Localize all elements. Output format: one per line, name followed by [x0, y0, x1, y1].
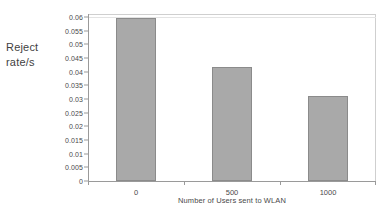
x-axis-line: [88, 181, 376, 182]
y-tick-label: 0.045: [65, 55, 88, 62]
bar: [308, 96, 348, 181]
x-tick-mark: [184, 181, 185, 185]
y-tick-label: 0.05: [69, 41, 88, 48]
y-tick-label: 0.035: [65, 82, 88, 89]
x-tick-mark: [88, 181, 89, 185]
y-tick-label: 0.01: [69, 150, 88, 157]
y-tick-label: 0: [79, 178, 88, 185]
x-axis-title: Number of Users sent to WLAN: [88, 196, 376, 205]
x-tick-mark: [280, 181, 281, 185]
y-tick-label: 0.005: [65, 164, 88, 171]
bar: [212, 67, 252, 181]
y-axis-title-line2: rate/s: [6, 55, 58, 70]
bar-chart: Reject rate/s 0.060.0550.050.0450.040.03…: [0, 0, 384, 213]
bars-layer: [88, 14, 376, 181]
y-tick-label: 0.03: [69, 96, 88, 103]
y-tick-label: 0.02: [69, 123, 88, 130]
y-tick-label: 0.06: [69, 14, 88, 21]
bar: [116, 18, 156, 181]
y-tick-label: 0.04: [69, 68, 88, 75]
y-tick-label: 0.015: [65, 137, 88, 144]
y-axis-title-line1: Reject: [6, 40, 58, 55]
x-tick-mark: [375, 181, 376, 185]
y-tick-label: 0.055: [65, 27, 88, 34]
y-axis-title: Reject rate/s: [6, 40, 58, 70]
y-tick-label: 0.025: [65, 109, 88, 116]
